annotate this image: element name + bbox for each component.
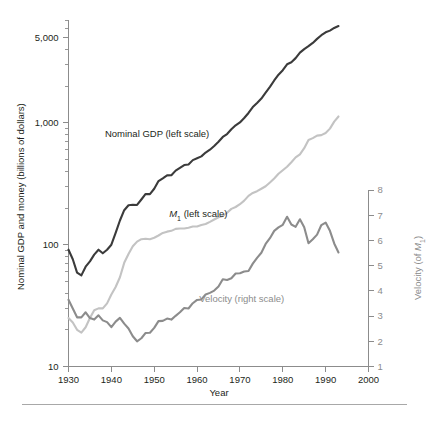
x-tick-label-1980: 1980 <box>272 374 293 385</box>
right-tick-label-8: 8 <box>378 184 383 195</box>
figure-container: 101001,0005,000 12345678 193019401950196… <box>0 0 429 422</box>
left-tick-label-100: 100 <box>43 239 59 250</box>
right-tick-label-5: 5 <box>378 260 383 271</box>
right-axis-tick-labels: 12345678 <box>378 184 383 372</box>
gdp-money-velocity-chart: 101001,0005,000 12345678 193019401950196… <box>0 0 429 422</box>
series-curve-0 <box>69 26 339 275</box>
right-tick-label-7: 7 <box>378 210 383 221</box>
x-tick-label-1930: 1930 <box>58 374 79 385</box>
series-label-nominal-gdp: Nominal GDP (left scale) <box>105 128 209 139</box>
x-tick-label-1950: 1950 <box>144 374 165 385</box>
footer-rule <box>22 404 407 405</box>
left-axis-tick-labels: 101001,0005,000 <box>35 32 59 372</box>
x-tick-label-1940: 1940 <box>101 374 122 385</box>
left-tick-label-10: 10 <box>48 361 59 372</box>
right-tick-label-6: 6 <box>378 235 383 246</box>
series-label-m1: M1 (left scale) <box>169 208 227 222</box>
y-axis-title: Nominal GDP and money (billions of dolla… <box>15 103 26 290</box>
right-axis-ticks <box>369 190 374 367</box>
right-tick-label-4: 4 <box>378 285 383 296</box>
right-tick-label-1: 1 <box>378 361 383 372</box>
series-label-velocity: Velocity (right scale) <box>199 293 284 304</box>
series-curve-2 <box>69 217 339 342</box>
x-tick-label-1960: 1960 <box>187 374 208 385</box>
left-tick-label-1,000: 1,000 <box>35 117 59 128</box>
x-axis-tick-labels: 19301940195019601970198019902000 <box>58 374 379 385</box>
x-tick-label-1990: 1990 <box>315 374 336 385</box>
y2-axis-title: Velocity (of M1) <box>412 236 426 300</box>
x-tick-label-1970: 1970 <box>229 374 250 385</box>
right-tick-label-2: 2 <box>378 336 383 347</box>
left-axis-ticks <box>63 20 69 367</box>
x-tick-label-2000: 2000 <box>358 374 379 385</box>
right-tick-label-3: 3 <box>378 310 383 321</box>
left-tick-label-5,000: 5,000 <box>35 32 59 43</box>
x-axis-title: Year <box>209 387 228 398</box>
x-axis-ticks <box>69 367 369 372</box>
